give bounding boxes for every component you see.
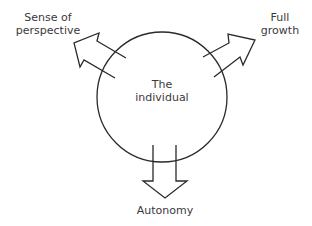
center-label-line-2: individual [132, 91, 192, 104]
label-perspective: Sense of perspective [12, 11, 84, 37]
label-autonomy: Autonomy [130, 204, 200, 217]
label-growth: Full growth [256, 11, 304, 37]
label-growth-line-2: growth [256, 24, 304, 37]
arrow-growth-icon [203, 34, 255, 77]
center-label-line-1: The [132, 78, 192, 91]
center-label: The individual [132, 78, 192, 104]
label-perspective-line-2: perspective [12, 24, 84, 37]
arrow-autonomy-icon [143, 145, 187, 198]
label-growth-line-1: Full [256, 11, 304, 24]
arrow-perspective-icon [74, 33, 126, 78]
label-autonomy-line-1: Autonomy [130, 204, 200, 217]
label-perspective-line-1: Sense of [12, 11, 84, 24]
